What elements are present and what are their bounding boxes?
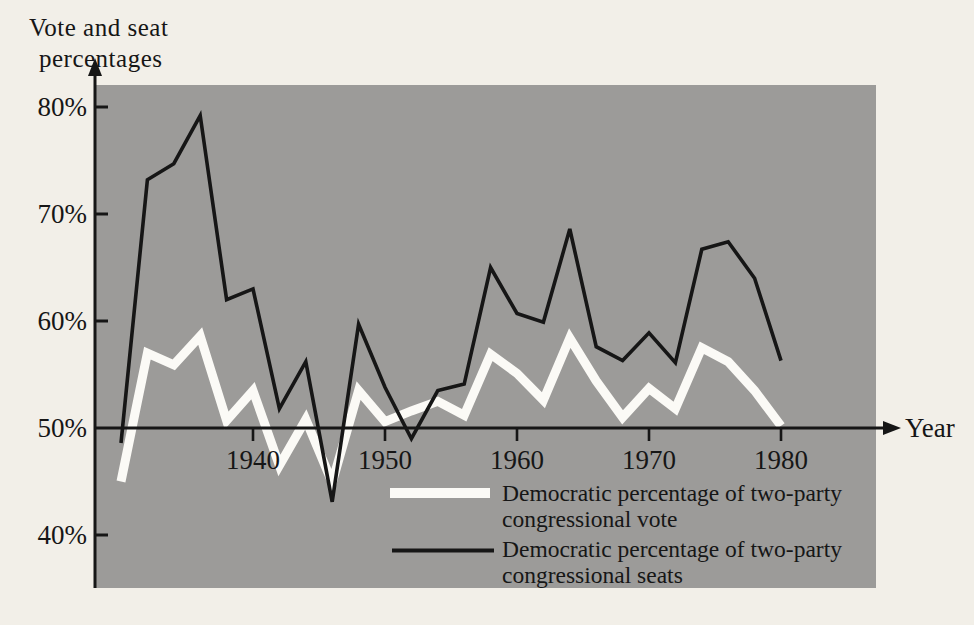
vote-legend-label-line1: Democratic percentage of two-party bbox=[502, 480, 842, 506]
y-tick-label-80: 80% bbox=[38, 92, 88, 122]
y-tick-label-70: 70% bbox=[38, 199, 88, 229]
x-tick-label-1980: 1980 bbox=[754, 445, 808, 475]
x-axis-arrow-icon bbox=[883, 421, 901, 435]
seats-legend-label-line1: Democratic percentage of two-party bbox=[502, 536, 842, 562]
x-axis-title: Year bbox=[905, 413, 955, 443]
seats-legend-label-line2: congressional seats bbox=[502, 562, 683, 588]
plot-area bbox=[95, 85, 876, 588]
vote-legend-label-line2: congressional vote bbox=[502, 506, 678, 532]
line-chart: Year 80%70%60%50%40%19401950196019701980… bbox=[0, 0, 974, 625]
x-tick-label-1950: 1950 bbox=[358, 445, 412, 475]
x-tick-label-1940: 1940 bbox=[226, 445, 280, 475]
y-tick-label-40: 40% bbox=[38, 520, 88, 550]
book-page: Vote and seat percentages Year 80%70%60%… bbox=[0, 0, 974, 625]
x-tick-label-1960: 1960 bbox=[490, 445, 544, 475]
x-tick-label-1970: 1970 bbox=[622, 445, 676, 475]
vote-line-swatch bbox=[390, 488, 490, 498]
y-axis-arrow-icon bbox=[88, 58, 102, 76]
y-tick-label-50: 50% bbox=[38, 413, 88, 443]
y-tick-label-60: 60% bbox=[38, 306, 88, 336]
seats-line-swatch bbox=[392, 549, 494, 553]
